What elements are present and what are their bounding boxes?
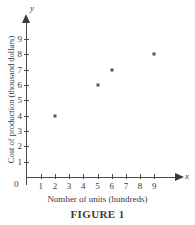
x-tick: [55, 174, 56, 179]
x-tick: [69, 174, 70, 179]
x-tick: [140, 174, 141, 179]
data-point: [110, 68, 113, 71]
x-tick-label: 6: [105, 182, 119, 191]
x-tick-label: 7: [119, 182, 133, 191]
y-tick: [24, 146, 29, 147]
x-tick-label: 9: [147, 182, 161, 191]
x-tick-label: 4: [76, 182, 90, 191]
scatter-plot: y x 0 123456789 123456789 Cost of produc…: [0, 0, 195, 195]
x-tick: [98, 174, 99, 179]
x-axis-title: Number of units (hundreds): [0, 194, 195, 204]
x-tick: [154, 174, 155, 179]
x-tick-label: 1: [34, 182, 48, 191]
data-point: [153, 53, 156, 56]
x-tick: [126, 174, 127, 179]
y-tick: [24, 162, 29, 163]
x-tick-label: 2: [48, 182, 62, 191]
x-tick-label: 5: [91, 182, 105, 191]
origin-label: 0: [14, 180, 19, 189]
y-tick: [24, 131, 29, 132]
x-tick: [112, 174, 113, 179]
y-tick: [24, 70, 29, 71]
data-point: [53, 114, 56, 117]
y-axis-variable-label: y: [30, 4, 34, 13]
x-axis-arrow-icon: [175, 173, 184, 181]
y-axis-arrow-icon: [22, 14, 30, 23]
x-tick-label: 8: [133, 182, 147, 191]
figure-caption: FIGURE 1: [0, 208, 195, 220]
x-axis-variable-label: x: [185, 172, 189, 181]
y-axis-line: [26, 22, 27, 185]
figure-container: y x 0 123456789 123456789 Cost of produc…: [0, 0, 195, 225]
x-tick: [83, 174, 84, 179]
y-axis-title: Cost of production (thousand dollars): [7, 20, 16, 180]
y-tick: [24, 116, 29, 117]
x-tick: [41, 174, 42, 179]
y-tick: [24, 54, 29, 55]
data-point: [96, 83, 99, 86]
y-tick: [24, 39, 29, 40]
x-tick-label: 3: [62, 182, 76, 191]
y-tick: [24, 100, 29, 101]
y-tick: [24, 85, 29, 86]
